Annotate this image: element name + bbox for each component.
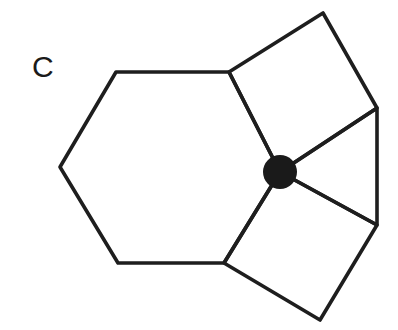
hexagon bbox=[60, 72, 280, 263]
vertex-dot bbox=[263, 155, 297, 189]
diagram-canvas: C bbox=[0, 0, 398, 330]
square-bottom bbox=[224, 172, 377, 320]
square-top bbox=[229, 13, 377, 172]
tiling-diagram bbox=[0, 0, 398, 330]
